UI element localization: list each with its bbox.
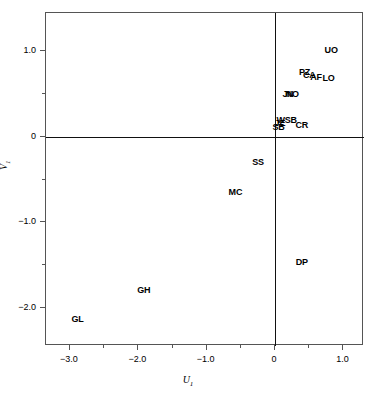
x-tick-label: −3.0 — [60, 354, 78, 364]
x-axis-label: U1 — [0, 374, 376, 388]
y-tick-mark-minor — [42, 264, 45, 265]
data-point-label: SB — [272, 123, 284, 132]
y-tick-mark-minor — [42, 179, 45, 180]
data-point-label: GH — [137, 285, 150, 294]
data-point-label: CR — [295, 120, 308, 129]
y-axis-label-subscript: 1 — [4, 160, 12, 164]
plot-area: UOPZCAAFLOJNNOWSBJESBCRSSMCDPGHGL — [45, 12, 363, 345]
x-axis-label-subscript: 1 — [190, 380, 194, 388]
x-tick-mark-minor — [103, 345, 104, 348]
y-tick-mark — [40, 307, 45, 308]
x-tick-mark — [206, 345, 207, 350]
zero-line-horizontal — [46, 137, 364, 138]
data-point-label: AF — [310, 73, 322, 82]
data-point-label: DP — [296, 258, 308, 267]
y-tick-label: 0 — [0, 131, 36, 141]
x-tick-label: 1.0 — [336, 354, 349, 364]
x-tick-label: 0 — [272, 354, 277, 364]
y-tick-label: −2.0 — [0, 302, 36, 312]
data-point-label: LO — [322, 73, 334, 82]
y-tick-label: −1.0 — [0, 216, 36, 226]
x-tick-mark-minor — [172, 345, 173, 348]
x-axis-label-text: U — [183, 374, 190, 385]
data-point-label: SS — [252, 158, 264, 167]
y-axis-label: V1 — [0, 160, 12, 170]
x-tick-mark-minor — [308, 345, 309, 348]
y-axis-label-text: V — [0, 164, 9, 170]
y-tick-mark-minor — [42, 93, 45, 94]
x-tick-label: −1.0 — [197, 354, 215, 364]
y-tick-mark — [40, 221, 45, 222]
y-tick-mark — [40, 136, 45, 137]
x-tick-label: −2.0 — [128, 354, 146, 364]
x-tick-mark — [274, 345, 275, 350]
x-tick-mark — [342, 345, 343, 350]
y-tick-mark — [40, 50, 45, 51]
data-point-label: MC — [229, 188, 243, 197]
x-tick-mark — [69, 345, 70, 350]
y-tick-label: 1.0 — [0, 45, 36, 55]
scatter-plot-figure: UOPZCAAFLOJNNOWSBJESBCRSSMCDPGHGL −3.0−2… — [0, 0, 376, 397]
x-tick-mark — [137, 345, 138, 350]
zero-line-vertical — [275, 13, 276, 346]
data-point-label: UO — [325, 45, 338, 54]
data-point-label: GL — [71, 314, 83, 323]
x-tick-mark-minor — [240, 345, 241, 348]
data-point-label: NO — [286, 90, 299, 99]
